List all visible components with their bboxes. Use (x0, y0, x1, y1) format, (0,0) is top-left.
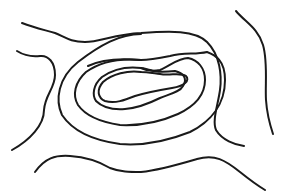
contour-map (0, 0, 283, 192)
